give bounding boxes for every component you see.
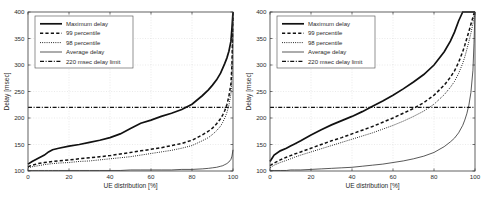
chart-panel-right: 020406080100100150200250300350400 UE dis…: [242, 0, 484, 201]
y-tick-label: 200: [14, 114, 25, 121]
x-tick-label: 40: [349, 173, 356, 180]
legend-label: 99 percentile: [66, 30, 101, 36]
chart-panel-left: 020406080100100150200250300350400 UE dis…: [0, 0, 242, 201]
x-tick-label: 0: [26, 173, 30, 180]
legend-label: 220 msec delay limit: [66, 59, 121, 65]
x-tick-label: 20: [66, 173, 73, 180]
y-tick-label: 400: [256, 8, 267, 15]
legend-label: 220 msec delay limit: [308, 59, 363, 65]
x-tick-label: 40: [107, 173, 114, 180]
right-legend: Maximum delay99 percentile98 percentileA…: [277, 16, 375, 68]
left-y-axis-title: Delay [msec]: [3, 72, 11, 110]
legend-label: Average delay: [66, 49, 104, 55]
y-tick-label: 350: [256, 35, 267, 42]
y-tick-label: 300: [14, 61, 25, 68]
y-tick-label: 250: [256, 88, 267, 95]
y-tick-label: 200: [256, 114, 267, 121]
y-tick-label: 100: [256, 167, 267, 174]
x-tick-label: 20: [308, 173, 315, 180]
legend-label: 98 percentile: [66, 40, 101, 46]
y-tick-label: 350: [14, 35, 25, 42]
legend-label: Maximum delay: [308, 21, 350, 27]
left-legend: Maximum delay99 percentile98 percentileA…: [35, 16, 133, 68]
x-tick-label: 100: [228, 173, 239, 180]
y-tick-label: 400: [14, 8, 25, 15]
right-y-axis-title: Delay [msec]: [245, 72, 253, 110]
y-tick-label: 250: [14, 88, 25, 95]
x-tick-label: 80: [189, 173, 196, 180]
y-tick-label: 100: [14, 167, 25, 174]
legend-label: 98 percentile: [308, 40, 343, 46]
left-chart-svg: 020406080100100150200250300350400 UE dis…: [0, 0, 242, 201]
y-tick-label: 150: [256, 141, 267, 148]
x-tick-label: 0: [268, 173, 272, 180]
left-x-axis-title: UE distribution [%]: [103, 182, 157, 190]
legend-label: Average delay: [308, 49, 346, 55]
legend-label: 99 percentile: [308, 30, 343, 36]
legend-label: Maximum delay: [66, 21, 108, 27]
x-tick-label: 60: [148, 173, 155, 180]
x-tick-label: 60: [390, 173, 397, 180]
x-tick-label: 80: [431, 173, 438, 180]
two-panel-delay-figure: 020406080100100150200250300350400 UE dis…: [0, 0, 485, 201]
y-tick-label: 300: [256, 61, 267, 68]
x-tick-label: 100: [470, 173, 481, 180]
y-tick-label: 150: [14, 141, 25, 148]
right-x-axis-title: UE distribution [%]: [345, 182, 399, 190]
right-chart-svg: 020406080100100150200250300350400 UE dis…: [242, 0, 484, 201]
